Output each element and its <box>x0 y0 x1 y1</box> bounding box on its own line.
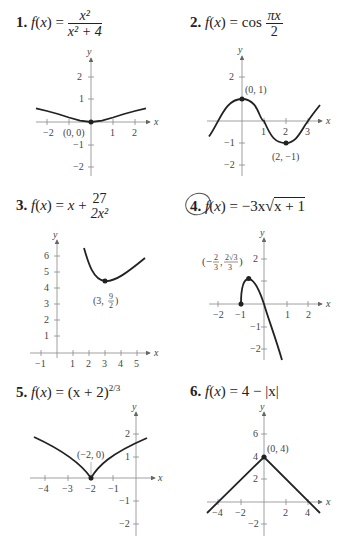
svg-text:(0, 1): (0, 1) <box>245 84 267 96</box>
svg-text:−4: −4 <box>38 483 49 494</box>
svg-text:y: y <box>237 44 243 55</box>
svg-text:1: 1 <box>125 451 130 462</box>
svg-text:(0, 0): (0, 0) <box>63 127 85 139</box>
graphs-canvas: xy −212 21−1−2 (0, 0) xy 123 2−1−2 (0, 1… <box>0 0 351 547</box>
svg-text:6: 6 <box>44 250 49 261</box>
svg-text:2√3: 2√3 <box>225 253 237 262</box>
svg-text:3: 3 <box>102 358 107 369</box>
svg-text:): ) <box>239 255 243 268</box>
svg-text:2: 2 <box>77 71 82 82</box>
svg-text:−1: −1 <box>119 495 130 506</box>
svg-text:2: 2 <box>44 314 49 325</box>
svg-text:y: y <box>259 227 265 238</box>
svg-text:3: 3 <box>228 263 232 272</box>
svg-text:−1: −1 <box>224 137 235 148</box>
svg-text:2: 2 <box>306 309 311 320</box>
svg-text:−2: −2 <box>248 518 259 529</box>
graph-6: xy −4−224 642−2 (0, 4) <box>207 401 331 536</box>
svg-text:2: 2 <box>283 126 288 137</box>
svg-text:−1: −1 <box>235 309 246 320</box>
svg-text:1: 1 <box>285 309 290 320</box>
svg-text:y: y <box>259 401 265 412</box>
graph-2: xy 123 2−1−2 (0, 1)(2, −1) <box>207 44 331 176</box>
svg-text:−2: −2 <box>213 309 224 320</box>
svg-text:1: 1 <box>261 126 266 137</box>
svg-text:−2: −2 <box>85 483 96 494</box>
svg-text:x: x <box>325 496 331 507</box>
svg-text:1: 1 <box>79 93 84 104</box>
svg-text:2: 2 <box>283 507 288 518</box>
svg-text:x: x <box>325 298 331 309</box>
svg-text:2: 2 <box>132 127 137 138</box>
svg-text:2: 2 <box>125 428 130 439</box>
svg-text:2: 2 <box>109 301 113 310</box>
svg-text:1: 1 <box>70 358 75 369</box>
svg-text:x: x <box>157 472 163 483</box>
svg-text:,: , <box>220 256 223 267</box>
svg-text:9: 9 <box>109 292 113 301</box>
svg-text:1: 1 <box>110 127 115 138</box>
svg-text:1: 1 <box>44 330 49 341</box>
svg-text:2: 2 <box>253 253 258 264</box>
svg-text:−1: −1 <box>108 483 119 494</box>
graph-3: xy −112345 654321 (3, 92) <box>30 229 159 369</box>
svg-text:4: 4 <box>118 358 123 369</box>
svg-text:x: x <box>153 347 159 358</box>
svg-text:y: y <box>131 401 137 412</box>
svg-text:x: x <box>153 116 159 127</box>
svg-text:3: 3 <box>214 263 218 272</box>
svg-text:y: y <box>86 46 92 57</box>
svg-text:2: 2 <box>214 253 218 262</box>
svg-text:2: 2 <box>253 473 258 484</box>
svg-text:6: 6 <box>253 428 258 439</box>
svg-text:(3,: (3, <box>93 295 104 307</box>
svg-text:): ) <box>115 295 118 307</box>
svg-text:−2: −2 <box>235 507 246 518</box>
svg-text:(2, −1): (2, −1) <box>272 151 299 163</box>
svg-text:3: 3 <box>305 126 310 137</box>
svg-text:−1: −1 <box>73 139 84 150</box>
svg-text:−2: −2 <box>224 159 235 170</box>
svg-text:−2: −2 <box>250 343 261 354</box>
svg-text:2: 2 <box>86 358 91 369</box>
graph-4: xy −2−112 2−1−2 (−23 ,2√33) <box>202 227 331 360</box>
svg-text:x: x <box>325 115 331 126</box>
svg-text:5: 5 <box>134 358 139 369</box>
svg-text:4: 4 <box>44 282 49 293</box>
svg-text:y: y <box>52 229 58 240</box>
svg-text:−2: −2 <box>73 161 84 172</box>
graph-5: xy −4−3−2−1 21−1−2 (−2, 0) <box>30 401 163 536</box>
svg-text:−2: −2 <box>43 127 54 138</box>
svg-text:(−: (− <box>202 255 212 268</box>
svg-text:−4: −4 <box>212 507 223 518</box>
svg-text:4: 4 <box>305 507 310 518</box>
svg-text:5: 5 <box>44 266 49 277</box>
svg-text:−2: −2 <box>119 518 130 529</box>
svg-text:4: 4 <box>253 451 258 462</box>
svg-text:3: 3 <box>44 298 49 309</box>
svg-text:−1: −1 <box>35 358 46 369</box>
svg-text:2: 2 <box>229 71 234 82</box>
svg-text:(0, 4): (0, 4) <box>267 443 289 455</box>
svg-text:−1: −1 <box>250 321 261 332</box>
svg-text:−3: −3 <box>62 483 73 494</box>
svg-text:(−2, 0): (−2, 0) <box>77 449 104 461</box>
graph-1: xy −212 21−1−2 (0, 0) <box>36 46 159 176</box>
